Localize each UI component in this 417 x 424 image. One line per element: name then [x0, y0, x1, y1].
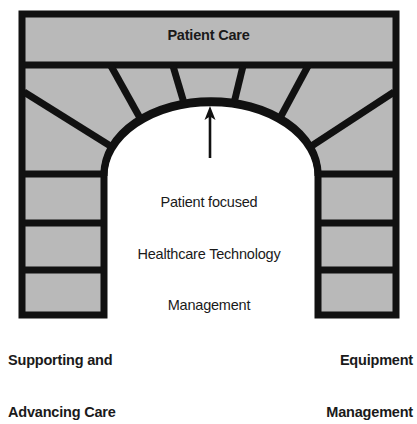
left-pillar-label: Supporting and Advancing Care	[8, 318, 168, 424]
patient-care-label: Patient Care	[0, 27, 417, 44]
right-pillar-line-2: Management	[255, 404, 413, 421]
center-callout-line-2: Healthcare Technology	[88, 246, 330, 263]
center-callout-line-3: Management	[88, 297, 330, 314]
left-pillar-line-2: Advancing Care	[8, 404, 168, 421]
right-pillar-label: Equipment Management	[255, 318, 413, 424]
center-callout-line-1: Patient focused	[88, 194, 330, 211]
right-pillar-line-1: Equipment	[255, 352, 413, 369]
left-pillar-line-1: Supporting and	[8, 352, 168, 369]
